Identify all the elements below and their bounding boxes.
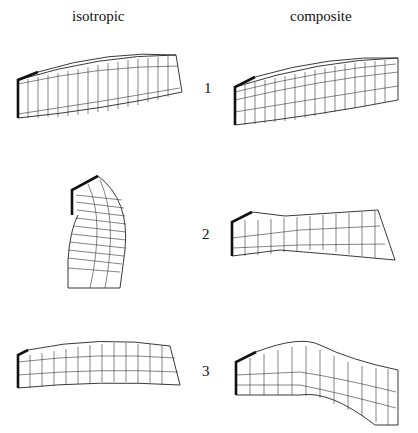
isotropic-mode-1-beam: [18, 54, 182, 118]
composite-mode-2-beam: [232, 210, 395, 260]
beam-mode-shapes-figure: [0, 0, 418, 433]
composite-mode-1-beam: [235, 58, 398, 125]
composite-mode-3-beam: [236, 341, 398, 425]
isotropic-mode-3-beam: [18, 341, 180, 388]
isotropic-mode-2-beam: [68, 176, 126, 288]
